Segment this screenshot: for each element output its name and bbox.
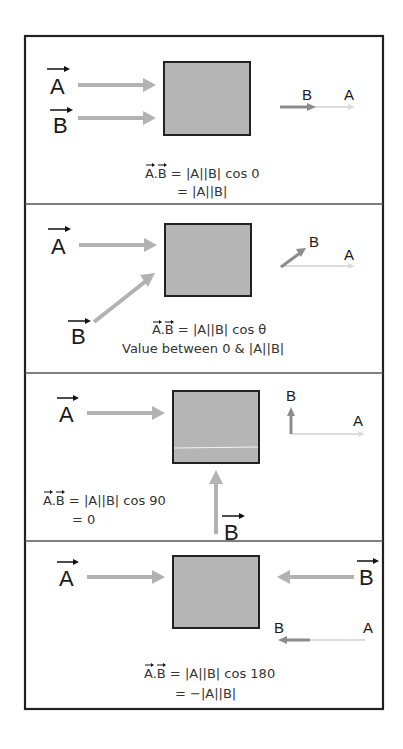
vector-mark-icon — [357, 558, 379, 564]
vector-mark-icon — [222, 513, 245, 519]
vector-mark-icon — [57, 559, 79, 565]
input-label-a: A — [59, 566, 74, 591]
result-label-b: B — [274, 619, 284, 636]
equation-line-1: A.B = |A||B| cos θ — [152, 322, 266, 337]
result-arrow-b-icon — [281, 248, 306, 267]
equation-line-1: A.B = |A||B| cos 180 — [144, 666, 275, 681]
equation-line-2: = |A||B| — [177, 184, 227, 199]
arrow-b-icon — [209, 470, 223, 534]
input-label-b: B — [53, 113, 68, 138]
arrow-b-icon — [277, 570, 354, 584]
arrow-b-icon — [78, 111, 156, 125]
equation-line-1: A.B = |A||B| cos 90 — [43, 493, 166, 508]
result-label-a: A — [344, 86, 354, 103]
object-box — [164, 62, 250, 135]
object-box — [165, 224, 251, 296]
result-label-a: A — [353, 412, 363, 429]
panel-angle-90: A B B A A.B = |A — [43, 387, 365, 545]
equation-line-2: = −|A||B| — [175, 686, 236, 701]
vector-mark-icon — [57, 395, 79, 401]
equation-line-1: A.B = |A||B| cos 0 — [145, 166, 260, 181]
input-label-a: A — [59, 402, 74, 427]
panel-angle-theta: A B B A A.B = |A||B| — [48, 224, 355, 356]
result-arrow-a-icon — [280, 263, 355, 269]
input-label-b: B — [359, 565, 374, 590]
arrow-a-icon — [87, 570, 165, 584]
arrow-a-icon — [79, 238, 157, 252]
result-label-a: A — [344, 246, 354, 263]
result-arrow-a-icon — [310, 104, 355, 110]
result-label-b: B — [309, 233, 319, 250]
object-box — [173, 391, 259, 463]
result-arrow-a-icon — [291, 431, 365, 437]
arrow-a-icon — [78, 78, 156, 92]
panel-angle-180: A B B A A.B = |A||B| cos 180 — [57, 556, 379, 701]
object-box — [173, 556, 259, 628]
result-label-b: B — [302, 86, 312, 103]
input-label-a: A — [50, 74, 65, 99]
arrow-b-icon — [94, 273, 155, 322]
result-arrow-b-icon — [280, 103, 316, 111]
result-arrow-b-icon — [278, 636, 310, 644]
panel-angle-0: A B B A — [47, 62, 355, 199]
equation-line-2: = 0 — [72, 512, 95, 527]
result-arrow-b-icon — [287, 407, 295, 434]
vector-mark-icon — [47, 66, 70, 72]
input-label-b: B — [224, 520, 239, 545]
dot-product-diagram: A B B A — [0, 0, 403, 749]
vector-mark-icon — [48, 226, 71, 232]
result-label-b: B — [286, 387, 296, 404]
result-label-a: A — [363, 619, 373, 636]
input-label-a: A — [51, 234, 66, 259]
arrow-a-icon — [87, 406, 165, 420]
input-label-b: B — [71, 324, 86, 349]
equation-line-2: Value between 0 & |A||B| — [122, 341, 284, 356]
